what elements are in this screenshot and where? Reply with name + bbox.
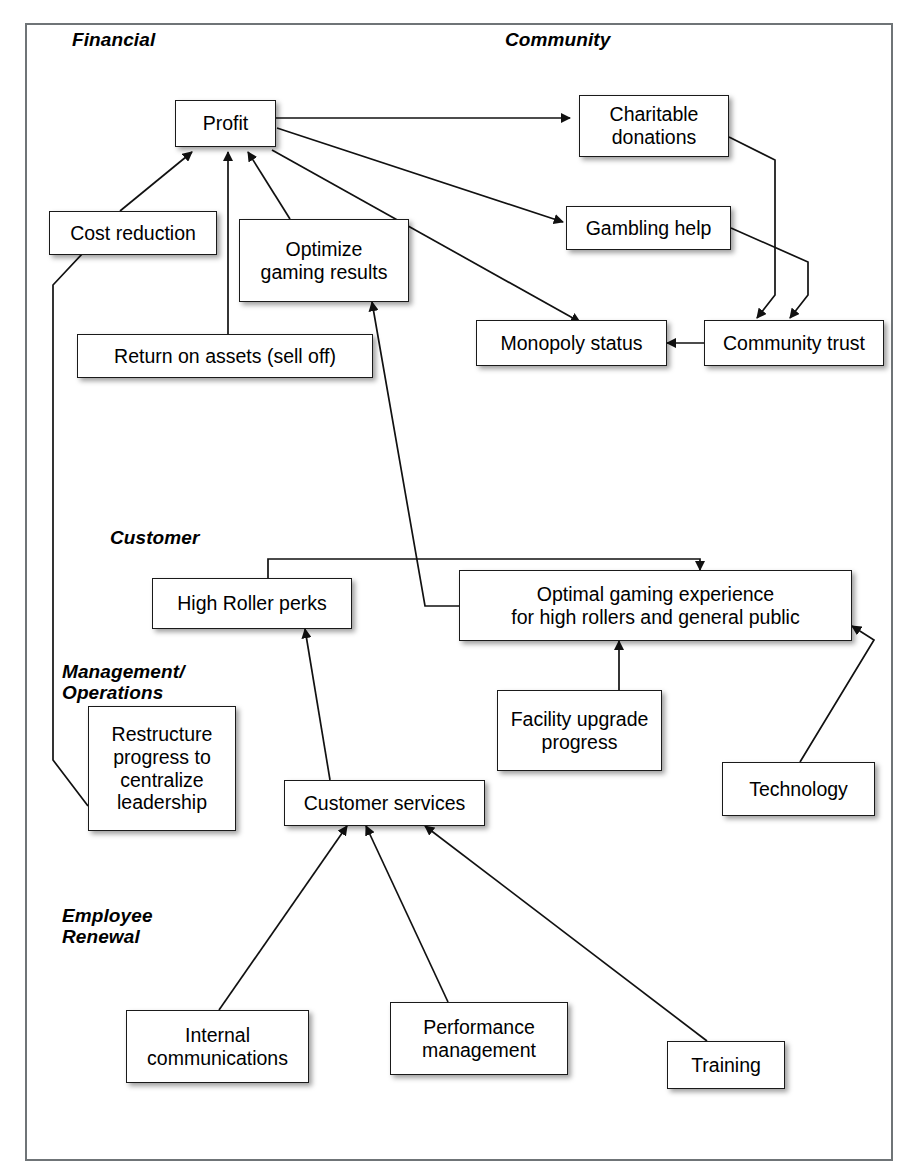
perspective-label-employee: Employee Renewal [62,905,153,948]
node-optimize-gaming-results[interactable]: Optimize gaming results [239,219,409,302]
node-profit[interactable]: Profit [175,100,276,147]
node-optimal-gaming-experience[interactable]: Optimal gaming experience for high rolle… [459,570,852,641]
node-restructure-progress[interactable]: Restructure progress to centralize leade… [88,706,236,831]
strategy-map-canvas: Financial Community Customer Management/… [0,0,910,1172]
node-high-roller-perks[interactable]: High Roller perks [152,578,352,629]
node-return-on-assets[interactable]: Return on assets (sell off) [77,334,373,378]
node-facility-upgrade-progress[interactable]: Facility upgrade progress [497,690,662,771]
node-internal-communications[interactable]: Internal communications [126,1010,309,1083]
node-cost-reduction[interactable]: Cost reduction [49,211,217,255]
node-customer-services[interactable]: Customer services [284,780,485,826]
node-technology[interactable]: Technology [722,762,875,816]
node-charitable-donations[interactable]: Charitable donations [579,95,729,157]
node-performance-management[interactable]: Performance management [390,1002,568,1075]
node-community-trust[interactable]: Community trust [704,320,884,366]
node-training[interactable]: Training [667,1041,785,1089]
perspective-label-customer: Customer [110,527,199,548]
node-monopoly-status[interactable]: Monopoly status [476,320,667,366]
node-gambling-help[interactable]: Gambling help [566,206,731,250]
perspective-label-community: Community [505,29,610,50]
perspective-label-management: Management/ Operations [62,661,185,704]
perspective-label-financial: Financial [72,29,155,50]
